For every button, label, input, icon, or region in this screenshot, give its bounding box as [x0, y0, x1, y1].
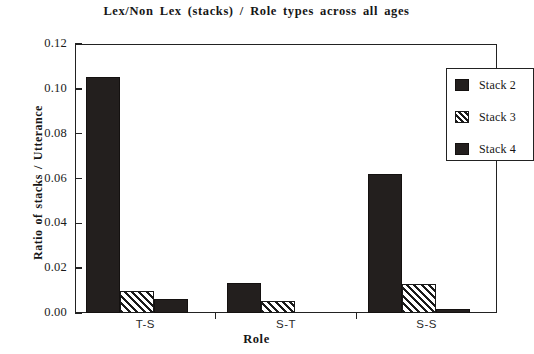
y-tick-mark: [75, 267, 82, 269]
y-tick-label: 0.06: [9, 171, 67, 186]
y-tick-label: 0.10: [9, 81, 67, 96]
chart-legend: Stack 2Stack 3Stack 4: [446, 68, 534, 161]
x-tick-mark: [356, 313, 358, 319]
y-tick-mark: [75, 88, 82, 90]
legend-label: Stack 2: [479, 78, 516, 93]
bar-s-s-stack-2: [368, 174, 402, 313]
y-tick-label: 0.00: [9, 305, 67, 320]
x-axis-label: Role: [0, 332, 513, 347]
x-tick-label-t-s: T-S: [100, 318, 190, 330]
legend-swatch-icon: [455, 79, 469, 91]
y-tick-mark: [75, 43, 82, 45]
page-title: Lex/Non Lex (stacks) / Role types across…: [0, 4, 513, 19]
y-tick-mark: [75, 312, 82, 314]
legend-label: Stack 3: [479, 110, 516, 125]
y-tick-label: 0.02: [9, 260, 67, 275]
bar-t-s-stack-3: [120, 291, 154, 313]
bar-s-t-stack-2: [227, 283, 261, 313]
y-tick-label: 0.04: [9, 215, 67, 230]
legend-entry-stack-3[interactable]: Stack 3: [455, 110, 516, 124]
legend-entry-stack-2[interactable]: Stack 2: [455, 78, 516, 92]
legend-swatch-icon: [455, 111, 469, 123]
x-tick-mark: [215, 313, 217, 319]
x-tick-label-s-s: S-S: [382, 318, 472, 330]
bar-t-s-stack-2: [86, 77, 120, 313]
y-tick-label: 0.08: [9, 126, 67, 141]
bar-s-s-stack-3: [402, 284, 436, 313]
bar-s-t-stack-3: [261, 301, 295, 313]
y-tick-mark: [75, 178, 82, 180]
x-tick-label-s-t: S-T: [241, 318, 331, 330]
legend-label: Stack 4: [479, 142, 516, 157]
y-tick-mark: [75, 223, 82, 225]
bar-s-s-stack-4: [436, 309, 470, 313]
y-tick-mark: [75, 133, 82, 135]
y-tick-label: 0.12: [9, 36, 67, 51]
legend-swatch-icon: [455, 143, 469, 155]
bar-t-s-stack-4: [154, 299, 188, 313]
legend-entry-stack-4[interactable]: Stack 4: [455, 142, 516, 156]
plot-area: [75, 44, 497, 313]
